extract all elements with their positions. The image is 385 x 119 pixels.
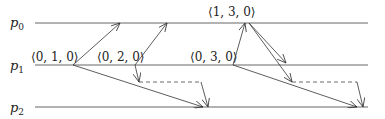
timestamp-130: ⟨1, 3, 0⟩	[208, 5, 256, 19]
process-timelines	[35, 23, 368, 107]
delivery-arrow	[357, 82, 363, 107]
timestamp-030: ⟨0, 3, 0⟩	[190, 50, 238, 64]
vector-timestamps: ⟨0, 1, 0⟩ ⟨0, 2, 0⟩ ⟨0, 3, 0⟩ ⟨1, 3, 0⟩	[31, 5, 256, 64]
delayed-deliveries	[139, 82, 363, 107]
message-arrow	[249, 23, 292, 82]
message-arrow	[233, 23, 245, 65]
process-label-p2: p2	[10, 100, 24, 117]
process-label-p0: p0	[10, 15, 24, 32]
message-arrow	[135, 23, 167, 65]
message-arrow	[249, 23, 286, 63]
delivery-arrow	[201, 82, 208, 107]
message-arrow	[73, 65, 203, 107]
vector-clock-diagram: p0 p1 p2 ⟨0, 1, 0⟩ ⟨0, 2, 0⟩ ⟨0, 3, 0⟩ ⟨…	[0, 0, 385, 119]
message-arrow	[233, 65, 357, 107]
process-label-p1: p1	[10, 58, 24, 75]
timestamp-010: ⟨0, 1, 0⟩	[31, 50, 79, 64]
message-arrow	[135, 65, 139, 82]
process-labels: p0 p1 p2	[10, 15, 24, 117]
